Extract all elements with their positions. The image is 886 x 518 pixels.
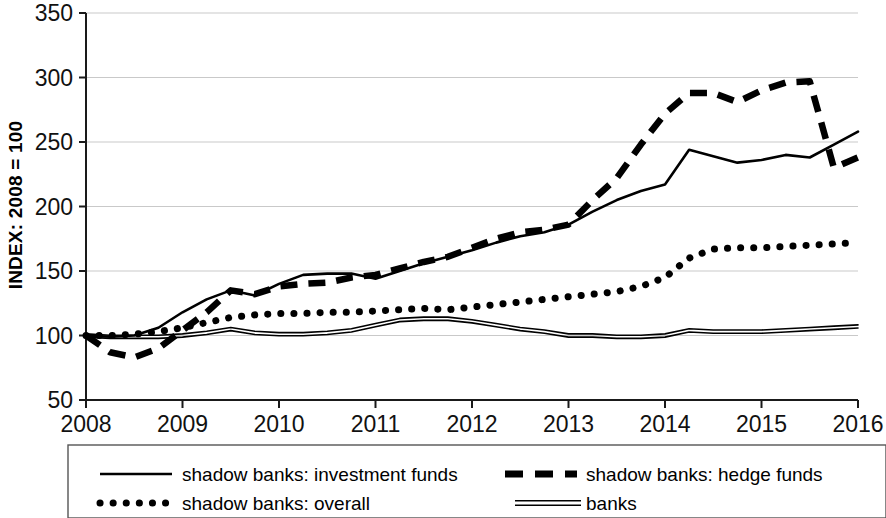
y-tick-label: 350 (35, 0, 73, 26)
series-path (86, 243, 858, 336)
legend-item[interactable]: shadow banks: overall (100, 493, 370, 514)
legend-item[interactable]: banks (515, 493, 637, 514)
series-dotted (86, 243, 858, 336)
x-tick-label: 2013 (543, 411, 594, 437)
legend-label: banks (586, 493, 637, 514)
legend-label: shadow banks: investment funds (182, 464, 458, 485)
x-tick-label: 2011 (351, 411, 400, 437)
legend-label: shadow banks: overall (182, 493, 370, 514)
y-axis-title: INDEX: 2008 = 100 (5, 121, 26, 290)
x-tick-label: 2014 (639, 411, 690, 437)
y-tick-label: 250 (35, 129, 73, 155)
index-line-chart: 50100150200250300350 2008200920102011201… (0, 0, 886, 518)
axis-ticks (79, 13, 858, 408)
legend-item[interactable]: shadow banks: investment funds (100, 464, 458, 485)
x-tick-label: 2016 (832, 411, 883, 437)
grid-lines (86, 13, 858, 336)
y-tick-label: 200 (35, 194, 73, 220)
double-line-marker (515, 501, 581, 505)
y-axis-tick-labels: 50100150200250300350 (35, 0, 73, 413)
x-axis-tick-labels: 200820092010201120122013201420152016 (60, 411, 883, 437)
y-tick-label: 100 (35, 323, 73, 349)
series-dashed (86, 81, 858, 357)
y-tick-label: 50 (47, 387, 73, 413)
series-path (86, 81, 858, 357)
x-tick-label: 2010 (253, 411, 304, 437)
legend-label: shadow banks: hedge funds (586, 464, 823, 485)
legend-item[interactable]: shadow banks: hedge funds (505, 464, 823, 485)
x-tick-label: 2012 (446, 411, 497, 437)
y-tick-label: 300 (35, 65, 73, 91)
x-tick-label: 2015 (736, 411, 787, 437)
chart-legend: shadow banks: investment fundsshadow ban… (68, 445, 886, 518)
series-path (86, 132, 858, 337)
data-series (86, 81, 858, 357)
y-tick-label: 150 (35, 258, 73, 284)
chart-container: 50100150200250300350 2008200920102011201… (0, 0, 886, 518)
x-tick-label: 2008 (60, 411, 111, 437)
x-tick-label: 2009 (157, 411, 208, 437)
series-solid (86, 132, 858, 337)
